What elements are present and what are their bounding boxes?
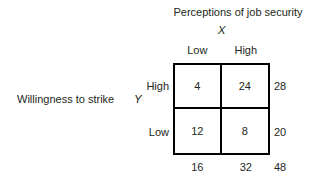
column-total-low: 16 [173,160,222,174]
row-total-low: 20 [274,125,298,139]
contingency-matrix: 4 24 12 8 [173,63,270,155]
column-total-high: 32 [222,160,271,174]
cell-high-low: 4 [175,65,222,109]
cell-low-high: 8 [222,109,269,153]
column-variable-symbol: X [173,24,270,37]
cell-high-high: 24 [222,65,269,109]
row-variable-symbol: Y [134,93,142,106]
column-totals: 16 32 [173,160,270,174]
row-variable-title: Willingness to strike [17,93,114,106]
row-header-high: High [136,79,169,93]
column-variable-title: Perceptions of job security [173,6,303,19]
column-header-high: High [222,43,271,57]
cell-low-low: 12 [175,109,222,153]
row-header-low: Low [136,125,169,139]
row-total-high: 28 [274,79,298,93]
grand-total: 48 [274,160,298,174]
contingency-matrix-grid: 4 24 12 8 [175,65,268,153]
column-headers: Low High [173,43,270,57]
column-header-low: Low [173,43,222,57]
